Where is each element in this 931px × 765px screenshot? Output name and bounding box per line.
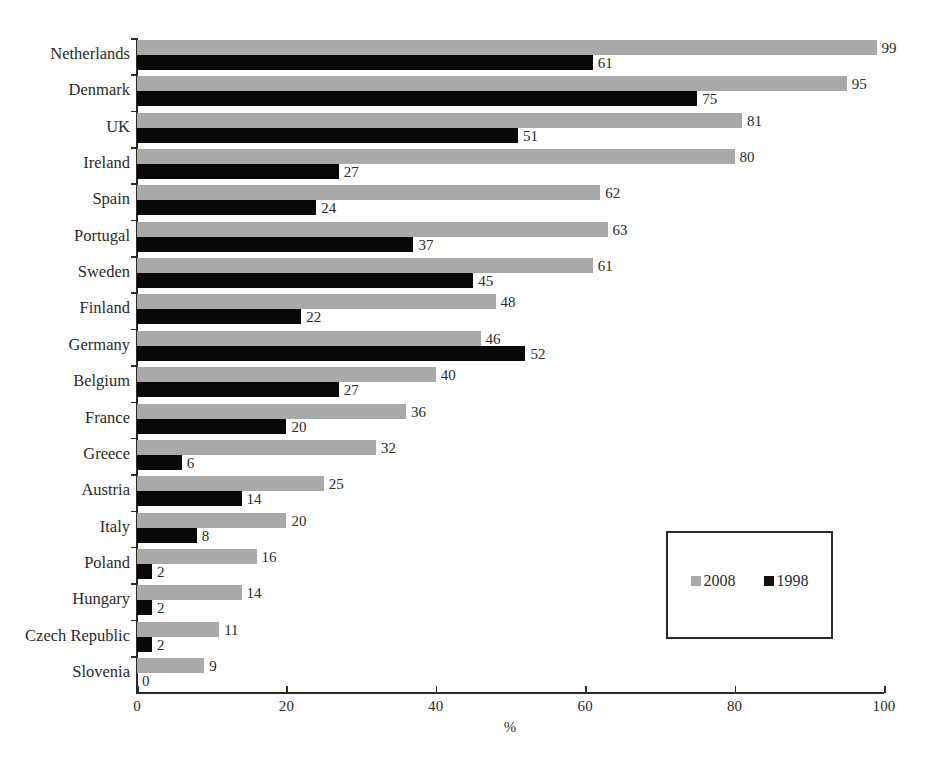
bar-value-1998-hungary: 2	[157, 601, 165, 616]
bar-value-1998-france: 20	[291, 420, 306, 435]
category-label-text: Greece	[5, 446, 130, 463]
bar-value-1998-czech-republic: 2	[157, 638, 165, 653]
x-axis-tick	[585, 686, 587, 693]
bar-value-2008-spain: 62	[605, 186, 620, 201]
bar-1998-poland	[137, 564, 152, 579]
bar-value-1998-slovenia: 0	[142, 674, 150, 689]
bar-value-1998-denmark: 75	[702, 92, 717, 107]
category-label-slovenia: Slovenia	[0, 664, 130, 682]
legend-label: 1998	[777, 573, 809, 589]
bar-value-1998-italy: 8	[202, 529, 210, 544]
bar-2008-netherlands	[137, 40, 877, 55]
x-axis-tick-label: 100	[854, 698, 914, 715]
bar-value-2008-austria: 25	[329, 477, 344, 492]
bar-value-2008-slovenia: 9	[209, 659, 217, 674]
bar-value-1998-portugal: 37	[418, 238, 433, 253]
x-axis-tick	[137, 686, 139, 693]
category-label-finland: Finland	[0, 300, 130, 318]
category-label-text: Germany	[5, 337, 130, 354]
legend-item-2008: 2008	[691, 573, 736, 589]
category-label-belgium: Belgium	[0, 373, 130, 391]
x-axis-tick-label: 0	[107, 698, 167, 715]
bar-2008-portugal	[137, 222, 608, 237]
bar-value-1998-belgium: 27	[344, 383, 359, 398]
bar-value-2008-sweden: 61	[598, 259, 613, 274]
bar-2008-czech-republic	[137, 622, 219, 637]
bar-1998-belgium	[137, 382, 339, 397]
bar-1998-netherlands	[137, 55, 593, 70]
category-label-text: Netherlands	[5, 46, 130, 63]
legend-swatch-icon	[764, 576, 774, 586]
x-axis-tick	[436, 686, 438, 693]
x-axis-tick-label: 20	[256, 698, 316, 715]
bar-value-1998-ireland: 27	[344, 165, 359, 180]
bar-value-2008-france: 36	[411, 405, 426, 420]
bar-1998-uk	[137, 128, 518, 143]
bar-value-1998-spain: 24	[321, 201, 336, 216]
bar-2008-france	[137, 404, 406, 419]
bar-2008-greece	[137, 440, 376, 455]
bar-value-2008-netherlands: 99	[882, 41, 897, 56]
category-label-text: UK	[5, 119, 130, 136]
category-label-poland: Poland	[0, 555, 130, 573]
bar-1998-hungary	[137, 600, 152, 615]
category-label-text: Ireland	[5, 155, 130, 172]
bar-2008-ireland	[137, 149, 735, 164]
bar-value-1998-netherlands: 61	[598, 56, 613, 71]
x-axis-tick	[884, 686, 886, 693]
bar-2008-poland	[137, 549, 257, 564]
x-axis-tick-label: 40	[406, 698, 466, 715]
category-label-text: Belgium	[5, 373, 130, 390]
bar-1998-france	[137, 419, 286, 434]
bar-2008-sweden	[137, 258, 593, 273]
bar-1998-spain	[137, 200, 316, 215]
x-axis-tick	[735, 686, 737, 693]
bar-1998-denmark	[137, 91, 697, 106]
category-label-text: Italy	[5, 519, 130, 536]
bar-2008-austria	[137, 476, 324, 491]
category-label-text: Spain	[5, 191, 130, 208]
bar-value-2008-greece: 32	[381, 441, 396, 456]
bar-1998-czech-republic	[137, 637, 152, 652]
category-label-uk: UK	[0, 119, 130, 137]
bar-2008-uk	[137, 113, 742, 128]
bar-2008-finland	[137, 294, 496, 309]
bar-1998-austria	[137, 491, 242, 506]
bar-1998-ireland	[137, 164, 339, 179]
bar-2008-germany	[137, 331, 481, 346]
legend-label: 2008	[704, 573, 736, 589]
bar-value-2008-czech-republic: 11	[224, 623, 238, 638]
category-label-text: Denmark	[5, 82, 130, 99]
bar-value-1998-germany: 52	[530, 347, 545, 362]
category-label-text: Czech Republic	[5, 628, 130, 645]
category-label-greece: Greece	[0, 446, 130, 464]
chart-legend: 20081998	[666, 531, 833, 639]
bar-2008-spain	[137, 185, 600, 200]
bar-value-2008-denmark: 95	[852, 77, 867, 92]
bar-2008-hungary	[137, 585, 242, 600]
category-label-italy: Italy	[0, 519, 130, 537]
category-label-text: Austria	[5, 482, 130, 499]
bar-value-2008-hungary: 14	[247, 586, 262, 601]
category-label-text: Finland	[5, 300, 130, 317]
category-label-text: Sweden	[5, 264, 130, 281]
x-axis-title: %	[480, 719, 540, 736]
category-label-ireland: Ireland	[0, 155, 130, 173]
legend-item-1998: 1998	[764, 573, 809, 589]
bar-value-2008-uk: 81	[747, 114, 762, 129]
category-label-netherlands: Netherlands	[0, 46, 130, 64]
bar-value-2008-poland: 16	[262, 550, 277, 565]
category-label-germany: Germany	[0, 337, 130, 355]
bar-1998-germany	[137, 346, 525, 361]
category-label-denmark: Denmark	[0, 82, 130, 100]
bar-value-1998-finland: 22	[306, 310, 321, 325]
bar-2008-slovenia	[137, 658, 204, 673]
bar-value-1998-austria: 14	[247, 492, 262, 507]
category-label-czech-republic: Czech Republic	[0, 628, 130, 646]
category-label-text: Hungary	[5, 591, 130, 608]
bar-value-2008-germany: 46	[486, 332, 501, 347]
bar-value-1998-sweden: 45	[478, 274, 493, 289]
bar-chart: NetherlandsDenmarkUKIrelandSpainPortugal…	[0, 0, 931, 765]
category-label-sweden: Sweden	[0, 264, 130, 282]
category-label-hungary: Hungary	[0, 591, 130, 609]
